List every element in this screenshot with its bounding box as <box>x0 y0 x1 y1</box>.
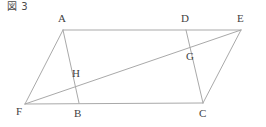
vertex-label-h: H <box>72 68 80 79</box>
vertex-label-f: F <box>16 106 22 117</box>
vertex-label-a: A <box>58 13 66 24</box>
geometry-diagram-svg <box>0 0 266 127</box>
vertex-label-b: B <box>74 108 81 119</box>
segment-dc <box>186 30 203 103</box>
segment-fc <box>25 103 203 104</box>
vertex-label-g: G <box>186 51 194 62</box>
vertex-label-d: D <box>181 13 189 24</box>
vertex-label-c: C <box>199 108 206 119</box>
vertex-label-e: E <box>237 13 244 24</box>
figure-container: 図 3 ABCDEFGH <box>0 0 266 127</box>
segments-layer <box>25 30 241 104</box>
